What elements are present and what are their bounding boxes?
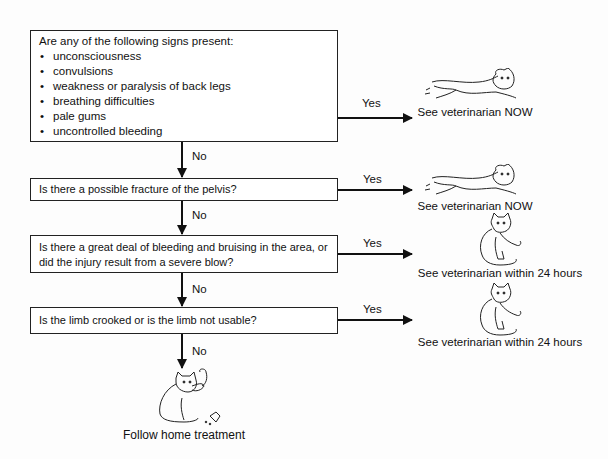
question-text: Is there a possible fracture of the pelv… (39, 182, 329, 197)
outcome-label: See veterinarian NOW (413, 106, 537, 118)
question-text: Is there a great deal of bleeding and br… (39, 240, 329, 270)
question-box-signs: Are any of the following signs present: … (30, 30, 338, 142)
cat-with-medicine-icon (148, 368, 234, 428)
yes-label: Yes (363, 303, 382, 315)
list-item: convulsions (39, 64, 329, 79)
no-label: No (192, 283, 207, 295)
no-label: No (192, 345, 207, 357)
final-outcome-label: Follow home treatment (114, 428, 254, 442)
list-item: uncontrolled bleeding (39, 124, 329, 139)
yes-label: Yes (363, 173, 382, 185)
list-item: pale gums (39, 109, 329, 124)
sitting-cat-icon (470, 283, 530, 339)
outcome-label: See veterinarian within 24 hours (410, 336, 590, 348)
sitting-cat-icon (470, 213, 530, 269)
yes-label: Yes (362, 97, 381, 109)
no-label: No (192, 150, 207, 162)
running-cat-icon (424, 68, 524, 106)
outcome-label: See veterinarian within 24 hours (410, 267, 590, 279)
list-item: unconsciousness (39, 49, 329, 64)
question-box-bleeding: Is there a great deal of bleeding and br… (30, 235, 338, 273)
question-box-limb: Is the limb crooked or is the limb not u… (30, 307, 338, 334)
question-box-pelvis: Is there a possible fracture of the pelv… (30, 178, 338, 201)
running-cat-icon (424, 164, 524, 202)
no-label: No (192, 209, 207, 221)
list-item: breathing difficulties (39, 94, 329, 109)
question-text: Are any of the following signs present: (39, 34, 329, 49)
signs-list: unconsciousness convulsions weakness or … (39, 49, 329, 139)
yes-label: Yes (363, 237, 382, 249)
list-item: weakness or paralysis of back legs (39, 79, 329, 94)
question-text: Is the limb crooked or is the limb not u… (39, 313, 329, 328)
outcome-label: See veterinarian NOW (413, 200, 537, 212)
